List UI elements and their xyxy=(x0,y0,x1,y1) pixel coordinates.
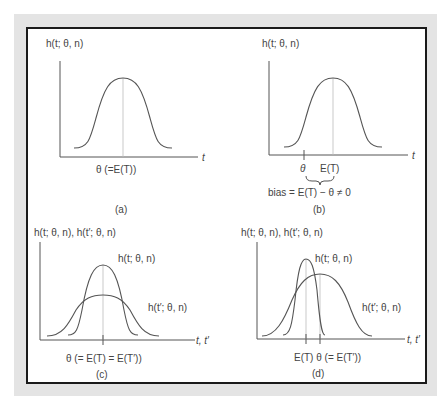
panel-c-y-label: h(t; θ, n), h(t′; θ, n) xyxy=(34,227,116,238)
panel-d-narrow-curve xyxy=(283,259,325,335)
panel-c-wide-label: h(t′; θ, n) xyxy=(148,302,187,313)
panel-a-caption: (a) xyxy=(115,204,127,215)
panel-c-caption: (c) xyxy=(96,369,108,380)
panel-d-wide-curve xyxy=(262,274,372,336)
panel-a: h(t; θ, n) t θ (=E(T)) (a) xyxy=(46,38,206,215)
panel-a-x-label: t xyxy=(202,152,206,163)
panel-c-x-label: t, t′ xyxy=(196,335,210,346)
panel-d-wide-label: h(t′; θ, n) xyxy=(362,302,401,313)
panel-a-y-label: h(t; θ, n) xyxy=(46,38,83,49)
panel-c-narrow-label: h(t; θ, n) xyxy=(118,253,155,264)
panel-b-y-label: h(t; θ, n) xyxy=(262,38,299,49)
panel-a-theta-label: θ (=E(T)) xyxy=(96,164,136,175)
panel-b-ET-label: E(T) xyxy=(320,163,339,174)
panel-d-axis-label: E(T) θ (= E(T′)) xyxy=(294,352,361,363)
panel-d-y-label: h(t; θ, n), h(t′; θ, n) xyxy=(241,227,323,238)
sampling-distribution-diagram: h(t; θ, n) t θ (=E(T)) (a) h(t; θ, n) t … xyxy=(0,0,448,405)
panel-b-caption: (b) xyxy=(313,204,325,215)
panel-d: h(t; θ, n), h(t′; θ, n) t, t′ h(t; θ, n)… xyxy=(241,227,421,379)
panel-d-x-label: t, t′ xyxy=(407,334,421,345)
panel-d-narrow-label: h(t; θ, n) xyxy=(315,253,352,264)
panel-b-bias-brace xyxy=(306,176,334,185)
panel-c-theta-label: θ (= E(T) = E(T′)) xyxy=(66,353,142,364)
panel-b-bias-label: bias = E(T) − θ ≠ 0 xyxy=(268,187,351,198)
panel-b-x-label: t xyxy=(412,150,416,161)
panel-b: h(t; θ, n) t θ E(T) bias = E(T) − θ ≠ 0 … xyxy=(262,38,416,215)
panel-b-theta-label: θ xyxy=(300,163,306,174)
panel-c: h(t; θ, n), h(t′; θ, n) t, t′ h(t; θ, n)… xyxy=(34,227,210,380)
panel-d-caption: (d) xyxy=(312,368,324,379)
